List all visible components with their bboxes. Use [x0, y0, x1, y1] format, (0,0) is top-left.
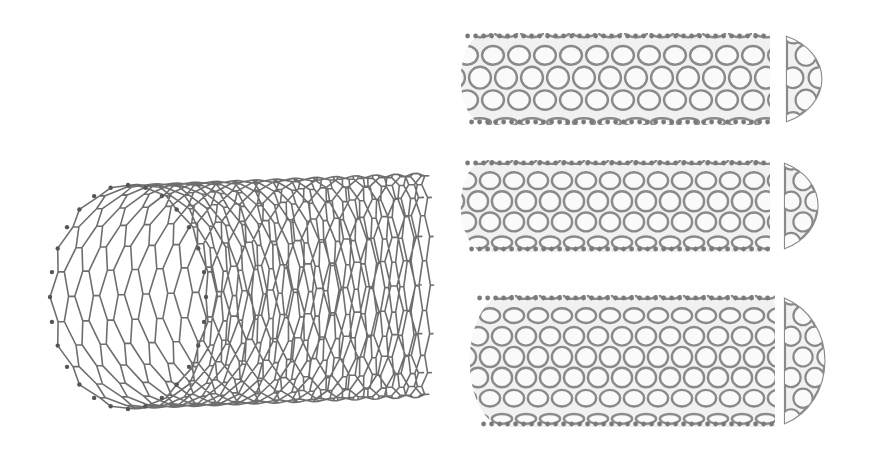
armchair-tube	[417, 23, 868, 156]
nanotube-figure: Carbon nanotube structures	[0, 0, 893, 456]
chiral-tube	[420, 285, 861, 449]
end-cap	[781, 150, 860, 272]
zigzag-tube	[420, 150, 861, 272]
capped-nanotube-models	[0, 0, 893, 456]
end-cap	[781, 285, 860, 449]
end-cap	[783, 23, 869, 156]
